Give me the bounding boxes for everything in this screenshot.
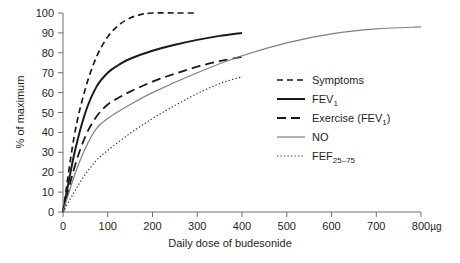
legend-item-fev1: FEV1 xyxy=(277,93,338,108)
y-tick-label: 50 xyxy=(42,107,54,119)
y-tick-label: 20 xyxy=(42,166,54,178)
x-tick-label: 300 xyxy=(188,220,206,232)
x-tick-label: 500 xyxy=(278,220,296,232)
legend-label-fef: FEF25–75 xyxy=(312,150,356,165)
legend-label-symptoms: Symptoms xyxy=(312,74,364,86)
legend-item-exercise: Exercise (FEV1) xyxy=(277,112,390,127)
x-tick-label: 600 xyxy=(322,220,340,232)
x-tick-label: 800 xyxy=(412,220,430,232)
y-tick-label: 90 xyxy=(42,27,54,39)
series-line-fef xyxy=(63,77,242,212)
x-axis-ticks xyxy=(63,212,421,217)
legend-label-fev1: FEV1 xyxy=(312,93,338,108)
y-tick-label: 10 xyxy=(42,186,54,198)
x-axis-tick-labels: 0 100 200 300 400 500 600 700 800 xyxy=(60,220,430,232)
y-tick-label: 40 xyxy=(42,126,54,138)
legend-label-no: NO xyxy=(312,131,329,143)
y-tick-label: 30 xyxy=(42,146,54,158)
series-line-fev1 xyxy=(63,33,242,212)
legend: Symptoms FEV1 Exercise (FEV1) NO FEF25–7… xyxy=(277,74,390,165)
x-tick-label: 700 xyxy=(367,220,385,232)
x-tick-label: 400 xyxy=(233,220,251,232)
chart-container: 0 10 20 30 40 50 60 70 80 90 100 0 xyxy=(0,0,460,263)
x-axis-title: Daily dose of budesonide xyxy=(168,237,292,249)
y-axis-tick-labels: 0 10 20 30 40 50 60 70 80 90 100 xyxy=(36,7,54,218)
y-tick-label: 0 xyxy=(48,206,54,218)
y-tick-label: 80 xyxy=(42,47,54,59)
chart-svg: 0 10 20 30 40 50 60 70 80 90 100 0 xyxy=(0,0,460,263)
y-tick-label: 70 xyxy=(42,67,54,79)
y-tick-label: 60 xyxy=(42,87,54,99)
y-axis-ticks xyxy=(58,13,63,212)
legend-item-no: NO xyxy=(277,131,329,143)
series-line-symptoms xyxy=(63,13,197,212)
x-axis-unit-label: µg xyxy=(430,221,441,232)
legend-item-fef: FEF25–75 xyxy=(277,150,356,165)
x-tick-label: 100 xyxy=(99,220,117,232)
series-line-exercise xyxy=(63,57,242,212)
legend-label-exercise: Exercise (FEV1) xyxy=(312,112,390,127)
y-axis-title: % of maximum xyxy=(14,76,26,149)
x-tick-label: 200 xyxy=(143,220,161,232)
x-tick-label: 0 xyxy=(60,220,66,232)
y-tick-label: 100 xyxy=(36,7,54,19)
legend-item-symptoms: Symptoms xyxy=(277,74,364,86)
